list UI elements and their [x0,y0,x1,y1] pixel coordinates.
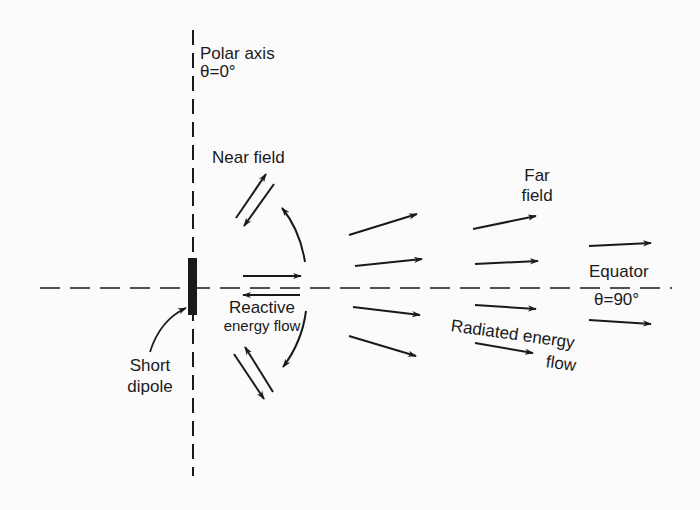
axes [40,30,672,476]
near-field-arrow [245,347,273,392]
reactive-label-line2: energy flow [202,318,322,334]
far-field-label-line2: field [512,186,562,205]
far-field-arrow [353,307,420,315]
reactive-label-line1: Reactive [212,298,312,317]
polar-angle-label: θ=0° [200,62,236,81]
short-dipole [188,258,197,315]
far-field-arrow [475,261,538,264]
dipole-label-line2: dipole [110,377,190,396]
near-field-arrow [234,354,264,399]
far-field-arrow [475,305,536,309]
far-field-arrow [349,214,417,235]
far-field-arrow [349,336,416,356]
far-field-arrow [589,320,651,324]
far-field-label-line1: Far [512,166,562,185]
far-field-arrow [473,216,536,229]
dipole-label-line1: Short [110,356,190,375]
near-field-label: Near field [212,148,285,167]
curved-arrow [282,208,305,262]
dipole-diagram [0,0,700,510]
near-field-arrow [244,184,274,226]
near-field-arrow [236,174,266,218]
far-field-arrow [355,259,422,266]
equator-label: Equator [589,262,649,281]
polar-axis-label: Polar axis [200,44,275,63]
far-field-arrow [589,243,651,246]
equator-angle-label: θ=90° [594,290,639,309]
dipole-pointer-arrow [150,308,186,352]
radiated-label-line2: flow [545,352,578,375]
